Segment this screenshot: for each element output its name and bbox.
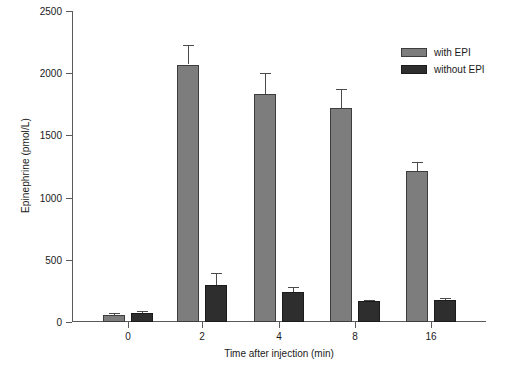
x-axis-tick-label: 2 xyxy=(199,331,205,342)
error-bar-cap xyxy=(260,73,271,74)
x-axis-tick-label: 8 xyxy=(352,331,358,342)
x-axis-tick xyxy=(202,322,203,328)
error-bar-cap xyxy=(137,311,148,312)
bar-with-epi-8 xyxy=(330,108,352,322)
bar-without-epi-8 xyxy=(358,301,380,322)
y-axis-tick: 0 xyxy=(66,322,72,323)
error-bar-line xyxy=(341,89,342,108)
x-axis-tick xyxy=(279,322,280,328)
error-bar-cap xyxy=(412,162,423,163)
chart-legend: with EPIwithout EPI xyxy=(401,45,485,79)
bar-without-epi-16 xyxy=(434,300,456,322)
legend-swatch-icon xyxy=(401,48,427,57)
bar-without-epi-2 xyxy=(205,285,227,322)
x-axis-tick xyxy=(128,322,129,328)
error-bar-cap xyxy=(109,313,120,314)
bar-without-epi-4 xyxy=(282,292,304,322)
y-axis-tick-label: 2000 xyxy=(40,68,62,79)
y-axis-tick-label: 500 xyxy=(45,254,62,265)
error-bar-line xyxy=(417,162,418,171)
legend-label: without EPI xyxy=(434,64,485,75)
y-axis-tick: 2000 xyxy=(66,73,72,74)
legend-swatch-icon xyxy=(401,65,427,74)
bar-with-epi-16 xyxy=(406,171,428,322)
error-bar-cap xyxy=(211,273,222,274)
y-axis-title: Epinephrine (pmol/L) xyxy=(20,46,31,286)
y-axis-tick-label: 0 xyxy=(56,317,62,328)
y-axis-tick-label: 1500 xyxy=(40,130,62,141)
error-bar-line xyxy=(188,45,189,64)
y-axis-tick: 500 xyxy=(66,260,72,261)
y-axis-tick: 1000 xyxy=(66,198,72,199)
x-axis-tick-label: 4 xyxy=(276,331,282,342)
x-axis-tick-label: 0 xyxy=(125,331,131,342)
y-axis-tick: 1500 xyxy=(66,135,72,136)
error-bar-line xyxy=(265,73,266,94)
x-axis-title: Time after injection (min) xyxy=(72,348,486,359)
error-bar-cap xyxy=(183,45,194,46)
bar-without-epi-0 xyxy=(131,313,153,322)
x-axis-tick-label: 16 xyxy=(425,331,436,342)
chart-figure: Epinephrine (pmol/L) 0500100015002000250… xyxy=(0,0,514,367)
bar-with-epi-4 xyxy=(254,94,276,322)
error-bar-cap xyxy=(364,300,375,301)
legend-item: with EPI xyxy=(401,45,485,60)
error-bar-line xyxy=(216,273,217,285)
y-axis-tick: 2500 xyxy=(66,11,72,12)
x-axis-tick xyxy=(431,322,432,328)
bar-with-epi-0 xyxy=(103,315,125,322)
y-axis-line xyxy=(72,11,73,322)
x-axis-tick xyxy=(355,322,356,328)
y-axis-tick-label: 2500 xyxy=(40,6,62,17)
error-bar-cap xyxy=(288,287,299,288)
error-bar-cap xyxy=(440,298,451,299)
y-axis-tick-label: 1000 xyxy=(40,192,62,203)
legend-item: without EPI xyxy=(401,62,485,77)
legend-label: with EPI xyxy=(434,47,471,58)
bar-with-epi-2 xyxy=(177,65,199,323)
error-bar-cap xyxy=(336,89,347,90)
